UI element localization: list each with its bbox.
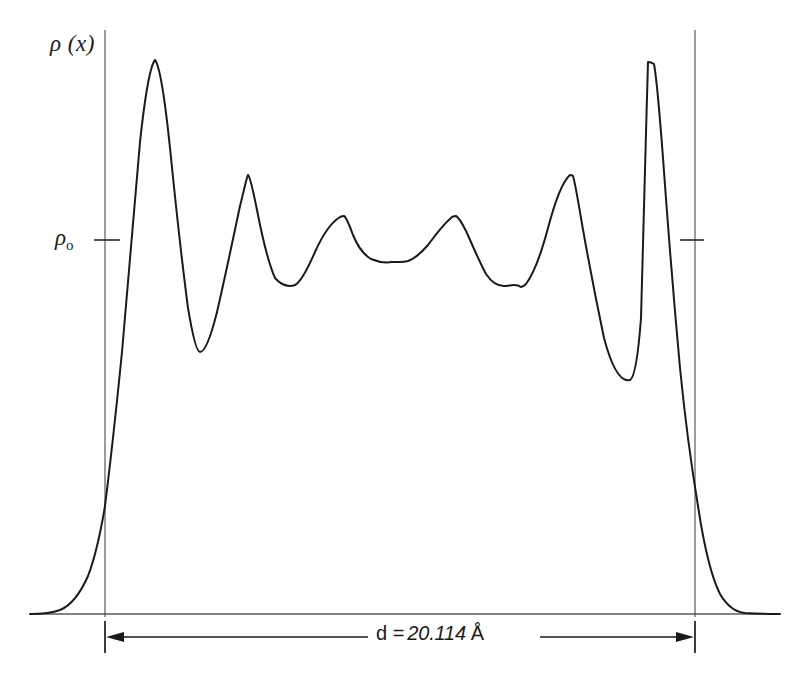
rho-zero-subscript: o (66, 237, 74, 253)
dimension-value: 20.114 (407, 622, 466, 644)
dimension-unit: Å (471, 622, 484, 644)
dimension-symbol: d = (376, 622, 404, 644)
dimension-label: d =20.114Å (376, 622, 484, 645)
dimension-arrowhead-right (676, 632, 694, 642)
y-axis-label: ρ (x) (50, 31, 95, 57)
dimension-arrowhead-left (106, 632, 124, 642)
rho-zero-label: ρo (55, 225, 74, 254)
electron-density-figure: ρ (x) ρo d =20.114Å (0, 0, 802, 678)
density-profile-plot (0, 0, 802, 678)
rho-symbol: ρ (55, 225, 66, 250)
density-curve (30, 60, 780, 614)
